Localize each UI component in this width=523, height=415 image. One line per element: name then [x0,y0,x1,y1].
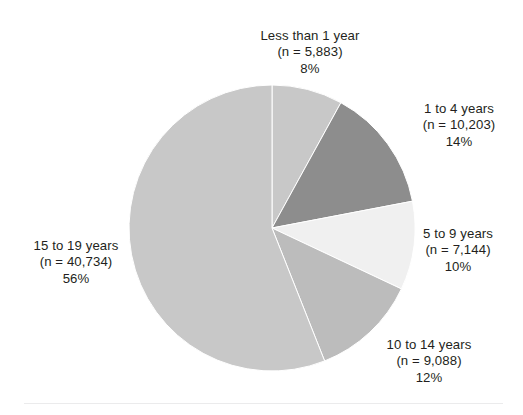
slice-count-text: (n = 10,203) [399,117,519,133]
slice-label-text: Less than 1 year [230,28,390,44]
slice-label-5-to-9-years: 5 to 9 years (n = 7,144) 10% [399,226,517,275]
slice-label-1-to-4-years: 1 to 4 years (n = 10,203) 14% [399,101,519,150]
slice-label-text: 10 to 14 years [363,337,495,353]
slice-percent-text: 10% [399,259,517,275]
slice-label-15-to-19-years: 15 to 19 years (n = 40,734) 56% [6,238,146,287]
slice-percent-text: 14% [399,134,519,150]
footer-divider [24,403,503,404]
slice-percent-text: 12% [363,370,495,386]
slice-label-text: 5 to 9 years [399,226,517,242]
slice-label-text: 1 to 4 years [399,101,519,117]
pie-slice-group [129,85,415,371]
slice-label-10-to-14-years: 10 to 14 years (n = 9,088) 12% [363,337,495,386]
slice-count-text: (n = 9,088) [363,353,495,369]
slice-label-text: 15 to 19 years [6,238,146,254]
slice-count-text: (n = 40,734) [6,254,146,270]
pie-chart-figure: Less than 1 year (n = 5,883) 8% 1 to 4 y… [0,0,523,415]
slice-label-less-than-1-year: Less than 1 year (n = 5,883) 8% [230,28,390,77]
slice-count-text: (n = 7,144) [399,242,517,258]
slice-percent-text: 8% [230,61,390,77]
slice-count-text: (n = 5,883) [230,44,390,60]
slice-percent-text: 56% [6,271,146,287]
